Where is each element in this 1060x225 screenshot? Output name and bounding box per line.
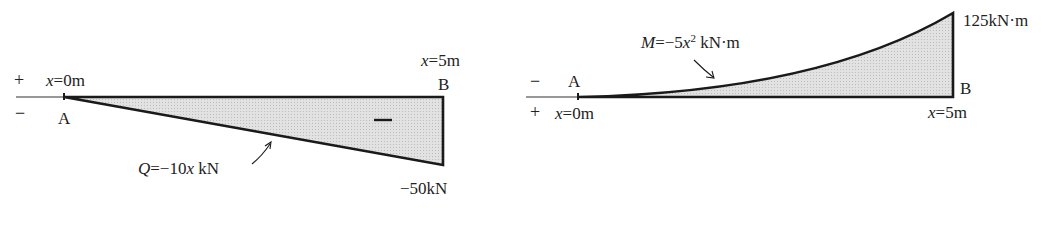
- shear-right-position-label: x=5m: [421, 52, 460, 69]
- position-value: =0m: [563, 104, 594, 123]
- moment-positive-sign: +: [530, 103, 540, 121]
- moment-negative-sign: −: [530, 72, 540, 90]
- x-variable: x: [421, 51, 429, 70]
- bending-moment-diagram: [526, 13, 953, 100]
- shear-area: [64, 97, 443, 165]
- shear-negative-sign: −: [15, 104, 25, 122]
- shear-equation: Q=−10x kN: [138, 160, 219, 177]
- position-value: =0m: [54, 71, 85, 90]
- shear-point-a-label: A: [58, 110, 70, 127]
- position-value: =5m: [429, 51, 460, 70]
- x-variable: x: [46, 71, 54, 90]
- shear-point-b-label: B: [438, 76, 449, 93]
- shear-positive-sign: +: [14, 71, 24, 89]
- position-value: =5m: [936, 103, 967, 122]
- equation-variable: Q: [138, 159, 150, 178]
- equation-coefficient: =−10: [150, 159, 186, 178]
- moment-point-a-label: A: [568, 73, 580, 90]
- equation-unit: kN·m: [696, 33, 740, 52]
- moment-right-position-label: x=5m: [928, 104, 967, 121]
- equation-coefficient: =−5: [655, 33, 683, 52]
- shear-leader-arrow: [252, 144, 270, 164]
- equation-unit: kN: [194, 159, 219, 178]
- shear-end-value: −50kN: [400, 180, 447, 197]
- moment-equation: M=−5x2 kN·m: [641, 33, 740, 51]
- shear-force-diagram: [16, 93, 443, 165]
- moment-leader-arrow: [694, 60, 713, 77]
- moment-end-value: 125kN·m: [963, 12, 1028, 29]
- equation-x: x: [186, 159, 194, 178]
- shear-left-position-label: x=0m: [46, 72, 85, 89]
- moment-area: [578, 13, 953, 97]
- equation-variable: M: [641, 33, 655, 52]
- moment-point-b-label: B: [960, 80, 971, 97]
- x-variable: x: [928, 103, 936, 122]
- x-variable: x: [555, 104, 563, 123]
- moment-left-position-label: x=0m: [555, 105, 594, 122]
